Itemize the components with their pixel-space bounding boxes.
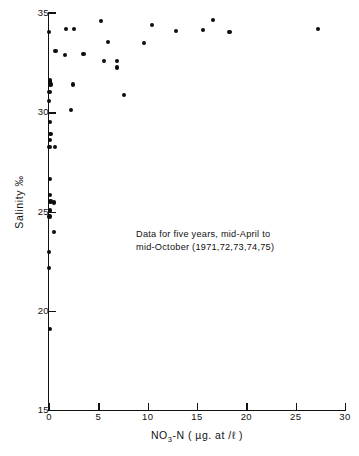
data-point [53,145,57,149]
data-point [47,99,51,103]
data-point [48,132,52,136]
x-tick-label-20: 20 [234,412,258,422]
x-tick-5 [98,403,99,410]
x-axis-right-cap [345,403,346,410]
x-tick-25 [296,403,297,410]
x-axis-title-suffix: -N ( µg. at /ℓ ) [172,429,243,441]
x-tick-label-25: 25 [284,412,308,422]
data-point [71,82,75,86]
data-point [150,23,154,27]
data-point [142,41,146,45]
y-tick-label-20: 20 [23,306,49,316]
data-point [99,19,103,23]
data-point [81,52,85,56]
y-tick-30 [49,112,56,113]
x-tick-20 [246,403,247,410]
data-point [201,28,205,32]
x-axis-title: NO3-N ( µg. at /ℓ ) [48,429,346,444]
y-tick-label-30: 30 [23,107,49,117]
data-point [48,193,52,197]
data-point [211,18,215,22]
y-tick-20 [49,311,56,312]
data-point [64,27,68,31]
x-tick-10 [148,403,149,410]
annotation-line-2: mid-October (1971,72,73,74,75) [136,241,274,254]
data-point [106,40,110,44]
x-tick-15 [197,403,198,410]
data-point [102,59,106,63]
data-point [47,90,51,94]
x-tick-label-10: 10 [136,412,160,422]
chart-annotation: Data for five years, mid-April to mid-Oc… [136,228,274,253]
data-point [47,30,51,34]
data-point [52,200,56,204]
data-point [47,250,51,254]
plot-area: 1520253035051015202530 Salinity ‰ NO3-N … [0,0,359,456]
y-tick-label-35: 35 [23,8,49,18]
x-tick-0 [49,403,50,410]
y-axis-top-cap [49,12,56,13]
data-point [115,59,119,63]
data-point [48,208,52,212]
data-point [48,327,52,331]
data-point [63,53,67,57]
y-axis-title: Salinity ‰ [13,147,25,257]
x-axis-title-prefix: NO [151,429,168,441]
data-point [47,266,51,270]
data-point [52,230,56,234]
data-point [72,27,76,31]
data-point [69,108,73,112]
annotation-line-1: Data for five years, mid-April to [136,228,274,241]
data-point [48,177,52,181]
x-tick-label-0: 0 [37,412,61,422]
data-point [48,138,52,142]
data-point [227,30,231,34]
data-point [115,65,119,69]
data-point [47,145,51,149]
scatter-plot-figure: 1520253035051015202530 Salinity ‰ NO3-N … [0,0,359,456]
data-point [53,49,57,53]
data-point [122,93,126,97]
y-tick-label-25: 25 [23,207,49,217]
x-tick-label-5: 5 [86,412,110,422]
x-tick-label-15: 15 [185,412,209,422]
x-tick-label-30: 30 [333,412,357,422]
data-point [47,214,51,218]
data-point [174,29,178,33]
data-point [316,27,320,31]
data-point [48,82,52,86]
data-point [48,120,52,124]
